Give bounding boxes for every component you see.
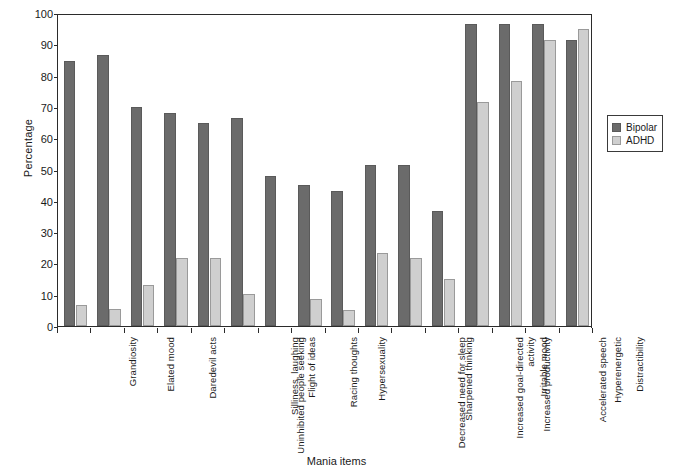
- bar-group: [231, 14, 255, 326]
- x-tick-mark: [559, 328, 560, 333]
- bar-adhd[interactable]: [511, 81, 523, 326]
- bar-adhd[interactable]: [210, 258, 222, 326]
- x-tick-mark: [525, 328, 526, 333]
- bar-adhd[interactable]: [410, 258, 422, 326]
- x-axis-title: Mania items: [0, 455, 673, 467]
- bar-adhd[interactable]: [578, 29, 590, 326]
- x-tick-mark: [157, 328, 158, 333]
- bar-bipolar[interactable]: [265, 176, 277, 326]
- bar-bipolar[interactable]: [432, 211, 444, 326]
- bar-bipolar[interactable]: [532, 24, 544, 326]
- y-axis-title: Percentage: [22, 88, 34, 208]
- x-tick-mark: [224, 328, 225, 333]
- x-tick-mark: [592, 328, 593, 333]
- x-tick-label: Hyperenergetic: [613, 337, 624, 403]
- x-tick-label: Accelerated speech: [599, 337, 610, 422]
- bar-adhd[interactable]: [477, 102, 489, 326]
- bar-adhd[interactable]: [544, 40, 556, 326]
- plot-area: 0102030405060708090100: [57, 14, 592, 327]
- bar-bipolar[interactable]: [231, 118, 243, 326]
- x-tick-label: Elated mood: [167, 337, 178, 391]
- x-tick-label: Silliness, laughing: [290, 337, 301, 415]
- x-tick-mark: [358, 328, 359, 333]
- x-tick-mark: [492, 328, 493, 333]
- bar-series-container: [58, 14, 592, 326]
- bar-bipolar[interactable]: [164, 113, 176, 326]
- bar-group: [298, 14, 322, 326]
- bar-group: [198, 14, 222, 326]
- x-tick-label: Grandiosity: [128, 337, 139, 386]
- bar-bipolar[interactable]: [566, 40, 578, 326]
- bar-adhd[interactable]: [444, 279, 456, 326]
- x-tick-mark: [325, 328, 326, 333]
- bar-bipolar[interactable]: [365, 165, 377, 326]
- x-tick-mark: [57, 328, 58, 333]
- bar-group: [97, 14, 121, 326]
- bar-adhd[interactable]: [310, 299, 322, 326]
- x-tick-mark: [391, 328, 392, 333]
- bar-bipolar[interactable]: [131, 107, 143, 326]
- bar-bipolar[interactable]: [198, 123, 210, 326]
- x-tick-mark: [191, 328, 192, 333]
- bar-adhd[interactable]: [176, 258, 188, 326]
- x-tick-mark: [90, 328, 91, 333]
- bar-group: [566, 14, 590, 326]
- bar-bipolar[interactable]: [331, 191, 343, 326]
- chart-legend: Bipolar ADHD: [607, 115, 663, 152]
- x-tick-label: Racing thoughts: [350, 337, 361, 407]
- bar-bipolar[interactable]: [398, 165, 410, 326]
- x-tick-label: Sharpened thinking: [463, 337, 474, 421]
- x-tick-label: Daredevil acts: [207, 337, 218, 399]
- x-tick-label: Irritable mood: [539, 337, 550, 396]
- x-tick-label: Flight of ideas: [307, 337, 318, 398]
- legend-swatch-bipolar: [612, 123, 621, 132]
- bar-adhd[interactable]: [377, 253, 389, 326]
- bar-bipolar[interactable]: [97, 55, 109, 326]
- bar-adhd[interactable]: [343, 310, 355, 326]
- x-tick-mark: [258, 328, 259, 333]
- bar-bipolar[interactable]: [465, 24, 477, 326]
- bar-group: [164, 14, 188, 326]
- bar-group: [532, 14, 556, 326]
- legend-item-bipolar[interactable]: Bipolar: [612, 121, 657, 133]
- bar-adhd[interactable]: [143, 285, 155, 326]
- bar-bipolar[interactable]: [64, 61, 76, 326]
- bar-group: [465, 14, 489, 326]
- bar-group: [398, 14, 422, 326]
- x-tick-mark: [291, 328, 292, 333]
- x-tick-label: Increased goal-directed activity: [515, 337, 536, 439]
- x-tick-mark: [425, 328, 426, 333]
- bar-chart-figure: Percentage 0102030405060708090100 Grandi…: [0, 0, 673, 473]
- bar-bipolar[interactable]: [298, 185, 310, 326]
- bar-group: [432, 14, 456, 326]
- bar-group: [365, 14, 389, 326]
- x-tick-label: Hypersexuality: [376, 337, 387, 401]
- legend-item-adhd[interactable]: ADHD: [612, 134, 657, 146]
- bar-group: [499, 14, 523, 326]
- legend-label-bipolar: Bipolar: [626, 122, 657, 133]
- bar-group: [131, 14, 155, 326]
- legend-label-adhd: ADHD: [626, 135, 654, 146]
- x-tick-mark: [458, 328, 459, 333]
- bar-adhd[interactable]: [109, 309, 121, 326]
- bar-group: [64, 14, 88, 326]
- bar-bipolar[interactable]: [499, 24, 511, 326]
- bar-group: [331, 14, 355, 326]
- x-tick-mark: [124, 328, 125, 333]
- bar-adhd[interactable]: [76, 305, 88, 326]
- bar-group: [265, 14, 289, 326]
- x-tick-label: Distractibility: [635, 337, 646, 392]
- legend-swatch-adhd: [612, 136, 621, 145]
- bar-adhd[interactable]: [243, 294, 255, 326]
